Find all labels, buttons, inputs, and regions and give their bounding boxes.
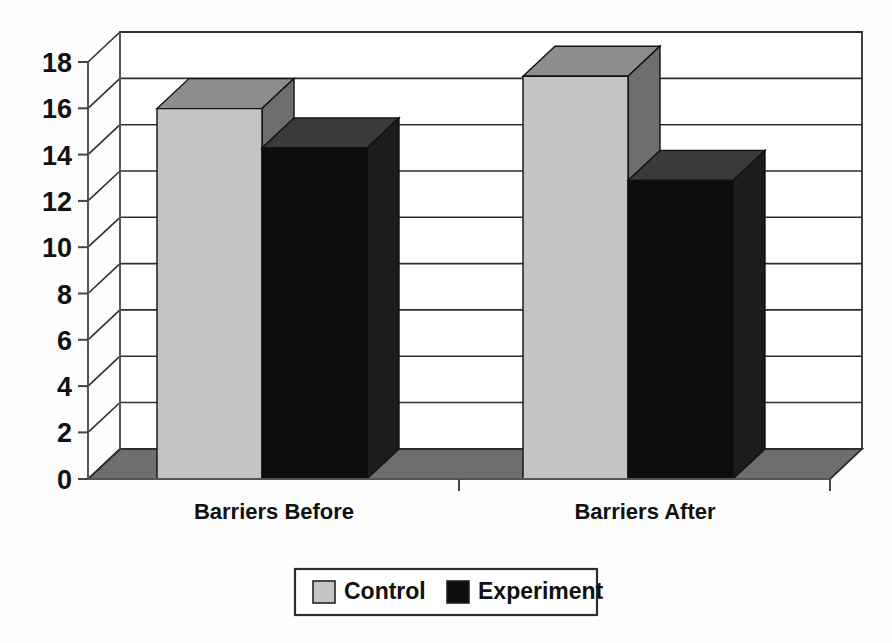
bar-chart-3d: 18 16 14 12 10 8 6 4 2 0: [0, 0, 892, 643]
legend-label-experiment: Experiment: [478, 578, 604, 604]
bar-side-face: [733, 150, 765, 479]
depth-line-2: [88, 403, 120, 433]
y-tick-label-4: 4: [57, 372, 72, 402]
y-tick-label-12: 12: [42, 187, 72, 217]
bar-experiment-barriers-after[interactable]: [628, 150, 765, 479]
legend-label-control: Control: [344, 578, 426, 604]
bar-front-face: [523, 76, 628, 479]
chart-legend: Control Experiment: [295, 569, 604, 615]
y-tick-label-16: 16: [42, 94, 72, 124]
depth-line-8: [88, 264, 120, 294]
y-tick-label-10: 10: [42, 233, 72, 263]
bar-front-face: [262, 148, 367, 479]
x-axis: Barriers Before Barriers After: [88, 479, 830, 524]
bar-front-face: [628, 180, 733, 479]
depth-line-12: [88, 171, 120, 201]
bar-front-face: [157, 109, 262, 479]
depth-line-6: [88, 310, 120, 340]
depth-line-14: [88, 125, 120, 155]
y-tick-label-2: 2: [57, 418, 72, 448]
y-tick-label-0: 0: [57, 465, 72, 495]
y-tick-label-14: 14: [42, 141, 72, 171]
depth-line-18: [88, 32, 120, 62]
depth-line-4: [88, 356, 120, 386]
left-depth-wall: [88, 32, 120, 479]
bar-experiment-barriers-before[interactable]: [262, 118, 399, 479]
depth-line-16: [88, 78, 120, 108]
chart-container: 18 16 14 12 10 8 6 4 2 0: [0, 0, 892, 643]
legend-swatch-control-icon: [313, 581, 335, 603]
y-axis: 18 16 14 12 10 8 6 4 2 0: [42, 48, 88, 495]
legend-swatch-experiment-icon: [447, 581, 469, 603]
x-category-label-2: Barriers After: [574, 499, 715, 524]
y-tick-label-6: 6: [57, 326, 72, 356]
y-tick-label-18: 18: [42, 48, 72, 78]
y-tick-label-8: 8: [57, 280, 72, 310]
bar-side-face: [367, 118, 399, 479]
x-category-label-1: Barriers Before: [194, 499, 354, 524]
depth-line-10: [88, 217, 120, 247]
